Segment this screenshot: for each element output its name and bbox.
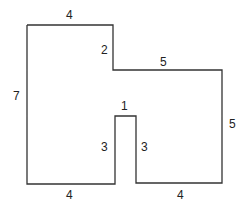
label-notch-left: 3 — [101, 141, 108, 153]
label-step-horizontal: 5 — [160, 56, 167, 68]
label-step-vertical: 2 — [101, 44, 108, 56]
label-right: 5 — [229, 118, 236, 130]
label-bottom-right: 4 — [177, 189, 184, 201]
label-top: 4 — [66, 9, 73, 21]
label-notch-right: 3 — [141, 141, 148, 153]
label-left: 7 — [13, 90, 20, 102]
label-notch-top: 1 — [121, 100, 128, 112]
label-bottom-left: 4 — [66, 189, 73, 201]
